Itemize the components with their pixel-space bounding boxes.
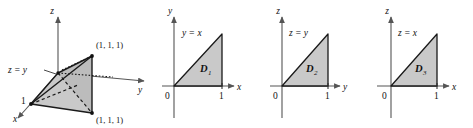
region-label: D [199,63,208,74]
vertex-dot-origin [56,71,59,74]
origin-label: 0 [273,91,278,101]
panel-region-d1: y x y = x 0 1 D 1 [160,0,268,128]
axis-label-z: z [49,6,54,16]
axis-label-horizontal: x [451,82,457,92]
panel-region-d2: z y z = y 0 1 D 2 [268,0,371,128]
vertex-label-top: (1, 1, 1) [96,40,123,50]
region-subscript: 3 [422,69,427,77]
origin-label: 0 [165,91,170,101]
leader-plane-label [44,70,56,74]
tick-label-one: 1 [325,91,330,101]
vertex-label-bottom: (1, 1, 1) [96,115,123,125]
origin-label: 0 [382,91,387,101]
line-label-z-equals-x: z = x [397,28,418,38]
line-label-y-equals-x: y = x [181,28,202,38]
axis-label-x: x [12,114,18,124]
panel-tetrahedron: z y x z = y 1 (1, 1, 1) (1, 1, 1) [0,0,160,128]
axis-label-horizontal: y [342,82,348,92]
tick-label-one: 1 [434,91,439,101]
panel-region-d3: z x z = x 0 1 D 3 [371,0,473,128]
axis-label-vertical: z [384,6,389,16]
region-label: D [414,63,423,74]
region-subscript: 1 [208,69,212,77]
line-label-z-equals-y: z = y [288,28,309,38]
axis-label-vertical: y [167,6,173,16]
region-subscript: 2 [314,69,318,77]
axis-label-y: y [137,85,143,95]
vertex-dot-bottom [90,111,94,115]
axis-label-vertical: z [275,6,280,16]
vertex-dot-top [90,54,94,58]
tetrahedron-faces [31,56,92,113]
plane-label-z-equals-y: z = y [7,65,28,75]
tick-label-one: 1 [219,91,224,101]
region-label: D [305,63,314,74]
tick-label-one: 1 [21,96,26,106]
vertex-dot-x1 [29,102,33,106]
axis-label-horizontal: x [236,82,242,92]
figure-root: z y x z = y 1 (1, 1, 1) (1, 1, 1) y [0,0,473,128]
